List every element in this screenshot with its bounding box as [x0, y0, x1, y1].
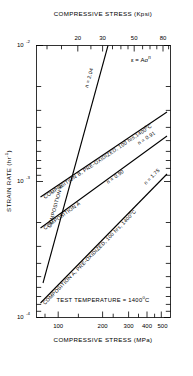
label-composition-b-preoxidized: COMPOSITION B, PRE-OXIDIZED, 100 hrs,140…: [42, 122, 153, 200]
y-tick-mantissa-mid: 10: [17, 178, 24, 184]
label-n-composition-b: n = 2.04: [83, 67, 94, 88]
label-composition-b-preoxidized-text: COMPOSITION B, PRE-OXIDIZED, 100 hrs,140…: [42, 122, 153, 200]
bottom-tick-label-100: 100: [53, 323, 64, 329]
data-lines: [41, 46, 168, 304]
top-tick-label-20: 20: [74, 35, 81, 41]
label-n-composition-b-text: n = 2.04: [83, 67, 94, 88]
top-tick-label-50: 50: [131, 35, 138, 41]
label-composition-a-text: COMPOSITION A: [42, 200, 81, 231]
equation-base: ε = Aσ: [131, 57, 149, 63]
y-tick-label-1e-2: 10 -2: [17, 39, 30, 48]
equation-exponent: n: [148, 55, 151, 60]
y-axis-title-text: STRAIN RATE (hr-1): [4, 150, 12, 212]
bottom-tick-label-300: 300: [124, 323, 135, 329]
top-tick-label-30: 30: [99, 35, 106, 41]
figure-container: COMPRESSIVE STRESS (Kpsi) 20 30 50 80 10…: [0, 0, 193, 376]
bottom-tick-label-200: 200: [98, 323, 109, 329]
bottom-tick-label-500: 500: [157, 323, 168, 329]
y-axis-title: STRAIN RATE (hr-1): [4, 150, 12, 212]
label-a-preox-main: COMPOSITION A, PRE-OXIDIZED, 100 hrs, 14…: [41, 213, 132, 306]
y-tick-exponent-bot: -4: [26, 311, 30, 316]
top-axis-title: COMPRESSIVE STRESS (Kpsi): [54, 10, 153, 17]
bottom-tick-label-400: 400: [142, 323, 153, 329]
y-tick-exponent-mid: -3: [26, 175, 30, 180]
y-tick-mantissa-top: 10: [17, 42, 24, 48]
bottom-axis-title: COMPRESSIVE STRESS (MPa): [54, 336, 153, 343]
y-axis-title-close: ): [5, 150, 12, 152]
bottom-axis-ticks: [45, 312, 161, 318]
test-temperature-note: TEST TEMPERATURE = 14000C: [56, 295, 149, 303]
label-composition-a: COMPOSITION A: [42, 200, 81, 231]
label-n-composition-a: n = 0.90: [105, 168, 125, 185]
y-tick-label-1e-4: 10 -4: [17, 311, 30, 320]
y-tick-exponent-top: -2: [26, 39, 30, 44]
top-tick-label-80: 80: [160, 35, 167, 41]
constitutive-equation-annotation: ε = Aσn: [131, 55, 151, 63]
y-tick-label-1e-3: 10 -3: [17, 175, 30, 184]
label-n-composition-a-text: n = 0.90: [105, 168, 125, 185]
test-note-main: TEST TEMPERATURE = 1400: [56, 297, 142, 303]
y-axis-title-main: STRAIN RATE (hr: [5, 157, 12, 212]
test-note-unit: C: [145, 297, 150, 303]
compressive-stress-strain-rate-chart: COMPRESSIVE STRESS (Kpsi) 20 30 50 80 10…: [0, 0, 193, 376]
y-tick-mantissa-bot: 10: [17, 314, 24, 320]
